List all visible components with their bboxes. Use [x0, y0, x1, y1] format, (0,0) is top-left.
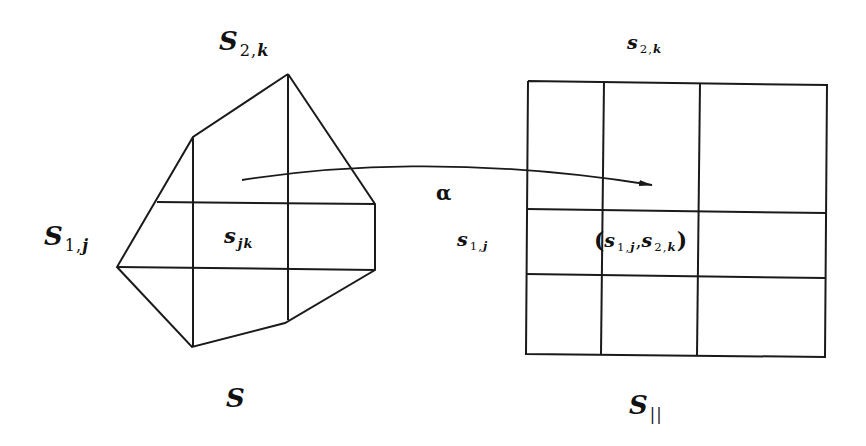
right-region-s-parallel: [526, 81, 827, 357]
left-cell-label-sjk: sjk: [224, 225, 254, 247]
left-region-outline: [117, 74, 375, 347]
left-region-grid-line: [117, 267, 375, 270]
right-side-label-s1j: s1,j: [457, 230, 488, 249]
left-top-label-s2k: S2,k: [219, 28, 269, 54]
right-region-name-s-parallel: S||: [629, 392, 663, 418]
right-top-label-s2k: s2,k: [627, 33, 662, 52]
right-region-grid-line: [526, 274, 825, 278]
right-region-outline: [526, 81, 827, 357]
right-region-grid-line: [527, 209, 826, 213]
left-side-label-s1j: S1,j: [44, 223, 89, 249]
left-region-name-s: S: [226, 385, 245, 411]
mapping-symbol-alpha: α: [436, 183, 451, 203]
right-region-grid-line: [601, 81, 604, 354]
right-region-grid-lines: [526, 81, 826, 356]
left-region-s: [117, 74, 375, 347]
diagram-canvas: [0, 0, 866, 446]
right-region-grid-line: [697, 83, 700, 356]
left-region-grid-lines: [117, 74, 375, 347]
left-region-grid-line: [157, 202, 375, 204]
right-cell-label-pair: (s1,j,s2,k): [594, 229, 687, 251]
